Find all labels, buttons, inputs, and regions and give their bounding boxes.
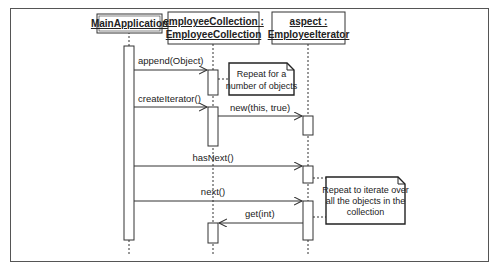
activation-collection-createiterator	[208, 107, 218, 146]
message-append: append(Object)	[134, 55, 207, 70]
note-repeat-objects-line2: number of objects	[226, 81, 298, 91]
message-createiterator-label: createIterator()	[138, 93, 201, 104]
participant-iterator-label-line1: aspect :	[290, 16, 328, 27]
participant-main-label: MainApplication	[91, 18, 168, 29]
participant-collection-label-line1: employeeCollection :	[163, 16, 264, 27]
note-repeat-iterate-line1: Repeat to iterate over	[322, 185, 409, 195]
participant-iterator: aspect : EmployeeIterator	[268, 12, 350, 44]
participant-iterator-label-line2: EmployeeIterator	[268, 29, 350, 40]
activation-iterator-new	[303, 116, 313, 135]
message-hasnext-label: hasNext()	[192, 152, 233, 163]
activation-collection-get	[208, 223, 218, 243]
activation-collection-append	[208, 70, 218, 95]
participant-main: MainApplication	[91, 14, 168, 33]
participant-collection: employeeCollection : EmployeeCollection	[163, 12, 264, 44]
message-get-label: get(int)	[245, 208, 275, 219]
note-repeat-iterate: Repeat to iterate over all the objects i…	[313, 177, 409, 224]
message-new: new(this, true)	[218, 102, 302, 116]
message-next: next()	[134, 186, 302, 201]
note-repeat-objects-line1: Repeat for a	[237, 69, 287, 79]
activation-iterator-next	[303, 201, 313, 240]
sequence-diagram: MainApplication employeeCollection : Emp…	[0, 0, 496, 271]
note-repeat-iterate-line3: collection	[347, 207, 385, 217]
message-hasnext: hasNext()	[134, 152, 302, 166]
message-next-label: next()	[201, 186, 225, 197]
note-repeat-iterate-line2: all the objects in the	[326, 196, 406, 206]
message-createiterator: createIterator()	[134, 93, 207, 107]
participant-collection-label-line2: EmployeeCollection	[166, 29, 262, 40]
activation-iterator-hasnext	[303, 166, 313, 183]
message-get: get(int)	[219, 208, 303, 223]
activation-main	[124, 46, 134, 240]
message-new-label: new(this, true)	[230, 102, 290, 113]
note-repeat-objects: Repeat for a number of objects	[218, 63, 298, 95]
message-append-label: append(Object)	[138, 55, 203, 66]
